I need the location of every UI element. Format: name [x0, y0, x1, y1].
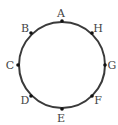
circle-diagram: AHGFEDCB	[0, 0, 118, 125]
point-d-marker	[29, 94, 33, 98]
point-g-label: G	[108, 59, 117, 72]
point-a-label: A	[56, 7, 66, 20]
point-h-label: H	[93, 22, 103, 35]
point-e-marker	[60, 107, 64, 111]
point-c-label: C	[6, 59, 14, 72]
point-b-marker	[29, 31, 33, 35]
point-b-label: B	[21, 22, 29, 35]
point-g-marker	[103, 63, 107, 67]
circle-diagram-canvas: AHGFEDCB	[0, 0, 118, 125]
point-c-marker	[16, 63, 20, 67]
point-f-label: F	[94, 94, 102, 107]
point-d-label: D	[21, 94, 30, 107]
point-e-label: E	[57, 112, 65, 125]
